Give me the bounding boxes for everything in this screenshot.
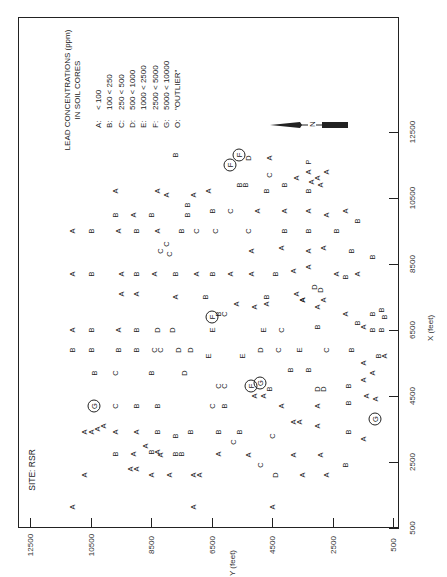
data-point: B: [147, 212, 156, 217]
data-point: D: [319, 387, 328, 392]
y-tick: [333, 518, 334, 528]
data-point: B: [183, 202, 192, 207]
data-point: A: [213, 451, 222, 456]
data-point: C: [277, 327, 286, 332]
data-point: B: [153, 430, 162, 435]
data-point: A: [249, 393, 258, 398]
data-point: B: [113, 347, 122, 352]
legend-title-line1: LEAD CONCENTRATIONS (ppm): [63, 30, 73, 151]
legend-code: D:: [127, 110, 136, 128]
data-point: B: [367, 311, 376, 316]
data-point: B: [343, 400, 352, 405]
data-point: D: [316, 288, 325, 293]
data-point: A: [358, 360, 367, 365]
data-point: A: [280, 209, 289, 214]
data-point: A: [313, 403, 322, 408]
data-point: A: [319, 298, 328, 303]
x-tick-label: 500: [408, 521, 417, 534]
data-point: A: [150, 271, 159, 276]
data-point: A: [304, 265, 313, 270]
data-point: B: [86, 347, 95, 352]
data-point: A: [189, 504, 198, 509]
data-point: C: [225, 208, 234, 213]
data-point: B: [304, 228, 313, 233]
data-point: A: [68, 271, 77, 276]
data-point: A: [316, 182, 325, 187]
data-point: A: [313, 176, 322, 181]
data-point: B: [131, 228, 140, 233]
x-tick: [389, 132, 399, 133]
data-point: B: [304, 367, 313, 372]
data-point: D: [243, 156, 252, 161]
data-point: A: [316, 453, 325, 458]
data-point: C: [110, 403, 119, 408]
data-point: E: [258, 327, 267, 332]
data-point: A: [322, 169, 331, 174]
data-point: A: [110, 430, 119, 435]
data-point: B: [213, 430, 222, 435]
data-point: B: [207, 271, 216, 276]
data-point: A: [165, 473, 174, 478]
data-point: B: [376, 327, 385, 332]
data-point: B: [110, 451, 119, 456]
data-point: C: [156, 347, 165, 352]
data-point: B: [343, 430, 352, 435]
data-point: A: [295, 420, 304, 425]
data-point: C: [322, 347, 331, 352]
outlier-point: G: [87, 399, 100, 412]
legend-range: 100 < 250: [105, 48, 114, 110]
data-point: C: [156, 248, 165, 253]
data-point: A: [192, 271, 201, 276]
data-point: B: [331, 228, 340, 233]
data-point: B: [313, 324, 322, 329]
data-point: D: [168, 327, 177, 332]
y-tick: [151, 518, 152, 528]
legend-item: A:< 100: [94, 48, 103, 128]
data-point: C: [243, 228, 252, 233]
data-point: A: [292, 291, 301, 296]
data-point: C: [255, 463, 264, 468]
outlier-point: F: [223, 159, 236, 172]
data-point: A: [131, 291, 140, 296]
data-point: C: [264, 172, 273, 177]
data-point: A: [304, 169, 313, 174]
data-point: B: [352, 321, 361, 326]
data-point: D: [174, 347, 183, 352]
x-tick-label: 2500: [408, 453, 417, 471]
y-tick-label: 12500: [26, 534, 35, 556]
data-point: A: [68, 327, 77, 332]
x-tick: [389, 396, 399, 397]
data-point: C: [228, 439, 237, 444]
y-tick: [212, 518, 213, 528]
data-point: B: [171, 153, 180, 158]
data-point: B: [183, 212, 192, 217]
data-point: B: [240, 182, 249, 187]
data-point: A: [147, 473, 156, 478]
data-point: B: [153, 403, 162, 408]
data-point: A: [319, 245, 328, 250]
data-point: A: [261, 301, 270, 306]
data-point: A: [113, 327, 122, 332]
legend-item: F:2500 < 5000: [150, 48, 159, 128]
data-point: B: [352, 219, 361, 224]
legend-code: B:: [105, 110, 114, 128]
data-point: B: [131, 347, 140, 352]
legend-title: LEAD CONCENTRATIONS (ppm)IN SOIL CORES: [63, 30, 83, 151]
data-point: D: [186, 347, 195, 352]
data-point: A: [68, 504, 77, 509]
data-point: A: [131, 430, 140, 435]
data-point: A: [252, 209, 261, 214]
data-point: A: [153, 189, 162, 194]
data-point: A: [153, 228, 162, 233]
data-point: B: [171, 433, 180, 438]
data-point: A: [361, 393, 370, 398]
data-point: A: [292, 176, 301, 181]
legend-code: O:: [173, 110, 182, 128]
data-point: E: [204, 354, 213, 359]
north-arrow-icon: N: [270, 118, 350, 132]
data-point: A: [340, 311, 349, 316]
data-point: C: [110, 370, 119, 375]
data-point: B: [367, 255, 376, 260]
y-axis-label: Y (feet): [228, 550, 237, 576]
data-point: A: [68, 228, 77, 233]
